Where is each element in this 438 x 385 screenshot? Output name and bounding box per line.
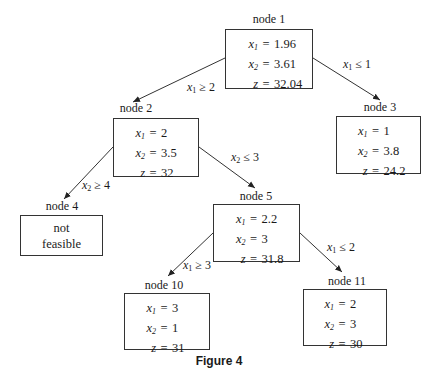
node-11-x1: 2 xyxy=(350,296,386,316)
node-2-box: x1=2 x2=3.5 z=32 xyxy=(113,118,199,177)
edge-2-4-label: x2 ≥ 4 xyxy=(82,178,110,193)
node-3-label: node 3 xyxy=(330,100,430,115)
node-2-x1: 2 xyxy=(161,125,197,145)
node-2-x2: 3.5 xyxy=(161,145,197,165)
node-5-label: node 5 xyxy=(206,189,306,204)
node-1-box: x1=1.96 x2=3.61 z=32.04 xyxy=(225,29,313,89)
edge-1-3-label: x1 ≤ 1 xyxy=(343,57,371,72)
node-3-x1: 1 xyxy=(384,123,420,143)
node-1-x2: 3.61 xyxy=(274,56,310,76)
node-11-box: x1=2 x2=3 z=30 xyxy=(303,289,387,346)
node-11-z: 30 xyxy=(350,336,386,352)
node-2-z: 32 xyxy=(161,165,197,181)
node-4-line1: not xyxy=(21,220,102,236)
node-10-x1: 3 xyxy=(172,300,208,320)
node-3-box: x1=1 x2=3.8 z=24.2 xyxy=(336,116,421,174)
node-2-label: node 2 xyxy=(86,101,186,116)
node-1-label: node 1 xyxy=(219,12,319,27)
edge-5-11-label: x1 ≤ 2 xyxy=(327,240,355,255)
node-4-label: node 4 xyxy=(12,199,112,214)
x2-var: x2 xyxy=(228,56,258,76)
node-1-x1: 1.96 xyxy=(274,36,310,56)
edge-1-2-label: x1 ≥ 2 xyxy=(187,80,215,95)
node-4-box: not feasible xyxy=(20,215,103,256)
z-var: z xyxy=(228,76,258,92)
node-4-line2: feasible xyxy=(21,236,102,252)
edge-2-5-label: x2 ≤ 3 xyxy=(231,150,259,165)
edge-5-10-label: x1 ≥ 3 xyxy=(183,258,211,273)
node-3-z: 24.2 xyxy=(384,163,420,179)
node-10-box: x1=3 x2=1 z=31 xyxy=(124,293,210,350)
node-3-x2: 3.8 xyxy=(384,143,420,163)
node-10-label: node 10 xyxy=(114,278,214,293)
x1-var: x1 xyxy=(228,36,258,56)
node-5-box: x1=2.2 x2=3 z=31.8 xyxy=(213,204,300,262)
figure-caption: Figure 4 xyxy=(0,354,438,368)
node-5-z: 31.8 xyxy=(262,251,298,267)
node-10-x2: 1 xyxy=(172,320,208,340)
node-11-x2: 3 xyxy=(350,316,386,336)
node-1-z: 32.04 xyxy=(274,76,310,92)
node-5-x2: 3 xyxy=(262,231,298,251)
node-5-x1: 2.2 xyxy=(262,211,298,231)
node-11-label: node 11 xyxy=(297,274,397,289)
